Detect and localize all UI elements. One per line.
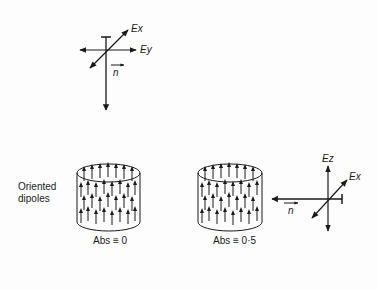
right-axes-diagram: [272, 166, 347, 231]
side-label-line2: dipoles: [18, 193, 56, 205]
figure-graphics: [0, 0, 377, 290]
label-ez-right: Ez: [322, 154, 334, 164]
dipole-orientation-figure: Ex Ey n Oriented dipoles Abs ≡ 0 Abs ≡ 0…: [0, 0, 377, 290]
caption-abs-left: Abs ≡ 0: [93, 236, 127, 246]
cylinder-right: [198, 162, 262, 231]
cylinder-left: [77, 162, 140, 231]
label-n-top: n: [113, 68, 119, 78]
dipole-arrows-left: [79, 162, 137, 225]
side-label: Oriented dipoles: [18, 181, 56, 205]
caption-abs-right: Abs ≡ 0·5: [213, 236, 256, 246]
label-ex-top: Ex: [131, 24, 143, 34]
label-ey-top: Ey: [140, 45, 152, 55]
top-axes-diagram: [80, 30, 136, 110]
label-ex-right: Ex: [349, 172, 361, 182]
dipole-arrows-right: [200, 162, 259, 225]
side-label-line1: Oriented: [18, 181, 56, 193]
label-n-right: n: [288, 206, 294, 216]
